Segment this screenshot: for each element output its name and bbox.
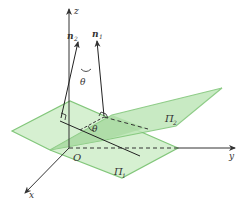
normal-n2-subscript: 2 xyxy=(73,35,78,42)
y-axis-label: y xyxy=(228,151,235,161)
x-axis-label: x xyxy=(29,190,34,200)
angle-theta-top: θ xyxy=(80,77,86,87)
z-axis-label: z xyxy=(73,6,79,16)
normal-n2-label: n xyxy=(67,31,74,41)
angle-theta-bottom: θ xyxy=(92,124,98,134)
normal-vector-n1 xyxy=(97,41,104,116)
plane-pi-2-subscript: 2 xyxy=(172,119,177,126)
normal-n1-subscript: 1 xyxy=(99,33,103,40)
x-axis xyxy=(25,148,69,193)
dihedral-angle-diagram: z x y O n 2 n 1 θ θ Π 1 Π 2 xyxy=(0,0,247,209)
plane-pi-1-subscript: 1 xyxy=(122,172,126,179)
normal-n1-label: n xyxy=(92,29,99,39)
origin-label: O xyxy=(73,152,81,163)
